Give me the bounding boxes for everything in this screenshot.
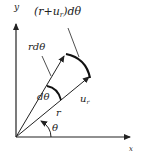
dtheta-label: dθ bbox=[37, 91, 49, 102]
outer-arc bbox=[66, 54, 90, 78]
outer-arc-leader bbox=[68, 28, 79, 57]
inner-arc-leader bbox=[42, 56, 51, 76]
ur-label: ur bbox=[80, 93, 90, 105]
inner-arc-label: rdθ bbox=[28, 41, 45, 52]
theta-arc bbox=[41, 121, 51, 137]
theta-label: θ bbox=[52, 122, 58, 133]
outer-arc-label: (r+ur)dθ bbox=[34, 5, 82, 19]
y-axis-label: y bbox=[13, 2, 20, 12]
polar-diagram: y x (r+ur)dθ rdθ dθ ur r θ bbox=[0, 0, 142, 153]
r-label: r bbox=[56, 107, 62, 118]
x-axis-label: x bbox=[129, 145, 133, 153]
